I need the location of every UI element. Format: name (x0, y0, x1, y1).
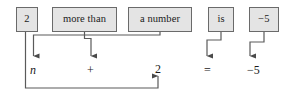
phrase-box-is-label: is (217, 14, 224, 25)
connector-a-number-to-n (34, 32, 161, 56)
phrase-box-more-than-label: more than (63, 14, 106, 25)
equation-term-variable-n: n (30, 64, 36, 76)
connector-two-to-constant (26, 32, 159, 88)
phrase-box-more-than[interactable]: more than (52, 7, 117, 32)
phrase-box-two[interactable]: 2 (16, 7, 38, 32)
connector-negative-five-to-result (250, 32, 264, 56)
equation-term-equals-operator: = (204, 64, 211, 76)
phrase-box-two-label: 2 (24, 14, 29, 25)
phrase-box-a-number[interactable]: a number (128, 7, 192, 32)
equation-term-constant-2: 2 (155, 63, 161, 75)
phrase-box-negative-five-label: −5 (258, 14, 269, 25)
equation-term-result-negative-five: −5 (247, 64, 260, 76)
phrase-box-is[interactable]: is (208, 7, 234, 32)
equation-term-plus-operator: + (87, 64, 94, 76)
translation-diagram: 2 more than a number is −5 n + 2 = −5 (0, 0, 293, 99)
connector-is-to-equals (207, 32, 221, 56)
phrase-box-a-number-label: a number (140, 14, 180, 25)
phrase-box-negative-five[interactable]: −5 (249, 7, 279, 32)
